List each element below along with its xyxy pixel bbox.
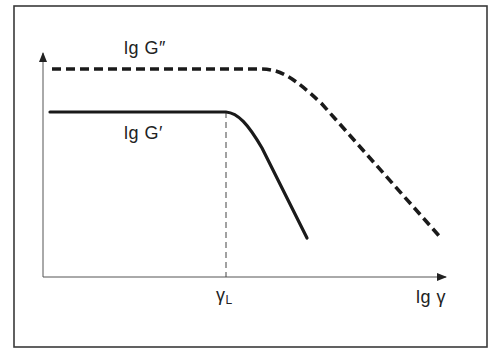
x-axis-label: lg γ	[416, 287, 446, 308]
g-double-prime-label: lg G″	[124, 38, 166, 59]
gamma-l-symbol: γ	[216, 285, 226, 305]
g-prime-label: lg G′	[124, 123, 163, 144]
g-double-prime-curve	[52, 69, 441, 238]
g-prime-curve	[50, 112, 307, 238]
gamma-l-label: γL	[216, 285, 233, 307]
gamma-l-subscript: L	[226, 293, 233, 307]
